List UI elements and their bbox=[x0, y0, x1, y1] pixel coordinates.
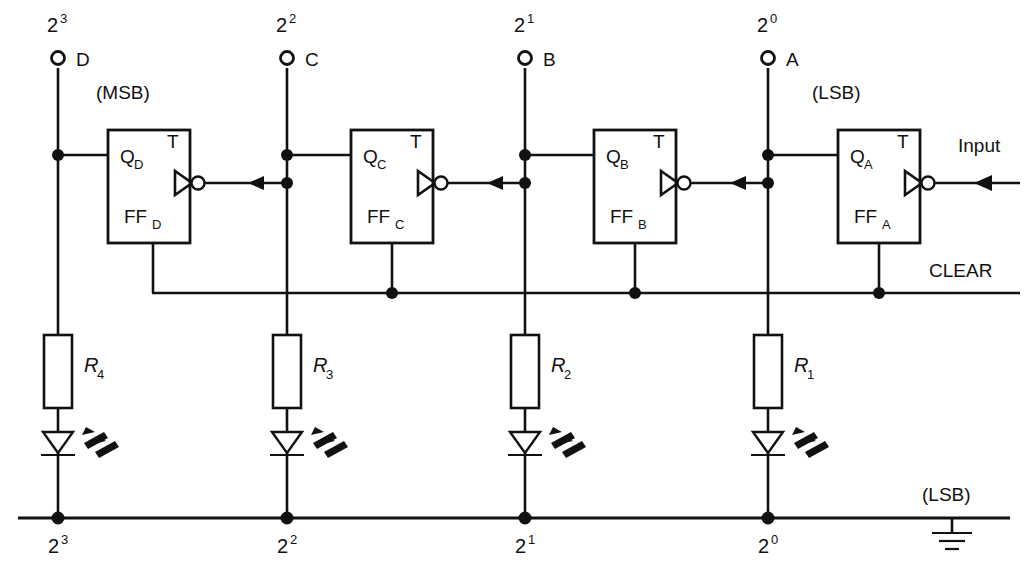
junction-dot-C-q bbox=[281, 149, 293, 161]
led-triangle-bit-3 bbox=[43, 432, 73, 453]
ff-label-A: FF bbox=[854, 206, 877, 227]
terminal-power-exp-B: 1 bbox=[527, 11, 534, 26]
junction-dot-A-q bbox=[762, 149, 774, 161]
resistor-sub-R1: 1 bbox=[807, 367, 814, 382]
q-sub-A: A bbox=[864, 157, 873, 172]
terminal-circle-A[interactable] bbox=[762, 52, 775, 65]
input-label: Input bbox=[958, 135, 1001, 156]
bus-label-bit-0: 2 0 bbox=[758, 532, 778, 557]
lsb-top-label: (LSB) bbox=[812, 82, 861, 103]
led-glow-arrows-bit-0 bbox=[792, 427, 829, 458]
clock-bubble-B bbox=[678, 177, 691, 190]
terminal-name-B: B bbox=[543, 49, 556, 70]
clear-junction-dot-C bbox=[386, 287, 398, 299]
terminal-power-base-D: 2 bbox=[47, 14, 58, 36]
q-sub-B: B bbox=[620, 157, 629, 172]
terminal-circle-B[interactable] bbox=[519, 52, 532, 65]
junction-dot-B-q bbox=[519, 149, 531, 161]
clock-chain-A-to-B bbox=[690, 176, 768, 190]
resistor-R1[interactable] bbox=[754, 335, 782, 408]
resistor-sub-R4: 4 bbox=[97, 367, 104, 382]
indicator-branch-bit-3: R 4 bbox=[41, 335, 119, 458]
q-label-A: Q bbox=[850, 146, 865, 167]
clock-bubble-C bbox=[435, 177, 448, 190]
bus-power-exp-bit-3: 3 bbox=[61, 532, 68, 547]
clock-bubble-D bbox=[192, 177, 205, 190]
input-arrow-icon bbox=[974, 175, 992, 191]
ff-sub-C: C bbox=[395, 217, 404, 232]
terminal-name-C: C bbox=[305, 49, 319, 70]
led-glow-arrows-bit-1 bbox=[549, 427, 586, 458]
bus-label-bit-3: 2 3 bbox=[48, 532, 68, 557]
ff-label-B: FF bbox=[610, 206, 633, 227]
clock-chain-B-to-C bbox=[447, 176, 525, 190]
ff-sub-D: D bbox=[152, 217, 161, 232]
q-sub-D: D bbox=[134, 157, 143, 172]
q-label-B: Q bbox=[606, 146, 621, 167]
clock-bubble-A bbox=[922, 177, 935, 190]
bus-power-base-bit-3: 2 bbox=[48, 535, 59, 557]
resistor-sub-R2: 2 bbox=[564, 367, 571, 382]
terminal-power-base-C: 2 bbox=[276, 14, 287, 36]
ff-sub-B: B bbox=[638, 217, 647, 232]
terminal-power-exp-A: 0 bbox=[770, 11, 777, 26]
junction-dot-A-clock bbox=[762, 177, 774, 189]
clock-arrow-A-to-B bbox=[730, 176, 746, 190]
flipflop-FF-C[interactable]: Q C T FF C bbox=[287, 130, 448, 293]
junction-dot-B-clock bbox=[519, 177, 531, 189]
indicator-branch-bit-1: R 2 bbox=[508, 335, 586, 458]
circuit-svg: 2 3 D 2 2 C 2 1 B 2 0 A (MSB) (LSB) Q D … bbox=[0, 0, 1028, 581]
resistor-sub-R3: 3 bbox=[326, 367, 333, 382]
clock-arrow-C-to-D bbox=[248, 176, 264, 190]
terminal-circle-D[interactable] bbox=[52, 52, 65, 65]
circuit-diagram: 2 3 D 2 2 C 2 1 B 2 0 A (MSB) (LSB) Q D … bbox=[0, 0, 1028, 581]
led-triangle-bit-1 bbox=[510, 432, 540, 453]
led-glow-arrows-bit-2 bbox=[311, 427, 348, 458]
resistor-R2[interactable] bbox=[511, 335, 539, 408]
bus-power-base-bit-2: 2 bbox=[277, 535, 288, 557]
t-label-D: T bbox=[167, 131, 179, 152]
terminal-name-A: A bbox=[786, 49, 799, 70]
terminal-power-exp-C: 2 bbox=[289, 11, 296, 26]
t-label-A: T bbox=[897, 131, 909, 152]
terminal-circle-C[interactable] bbox=[281, 52, 294, 65]
ground-junction-dot-bit-3 bbox=[52, 512, 65, 525]
flipflop-FF-D[interactable]: Q D T FF D bbox=[58, 130, 205, 293]
junction-dot-C-clock bbox=[281, 177, 293, 189]
clock-arrow-B-to-C bbox=[487, 176, 503, 190]
flipflop-FF-B[interactable]: Q B T FF B bbox=[525, 130, 691, 293]
indicator-branch-bit-0: R 1 bbox=[751, 335, 829, 458]
resistor-R3[interactable] bbox=[273, 335, 301, 408]
ff-label-D: FF bbox=[124, 206, 147, 227]
ff-label-C: FF bbox=[367, 206, 390, 227]
clear-bus[interactable]: CLEAR bbox=[152, 260, 1020, 293]
bus-power-exp-bit-2: 2 bbox=[290, 532, 297, 547]
clear-junction-dot-B bbox=[629, 287, 641, 299]
led-glow-arrows-bit-3 bbox=[82, 427, 119, 458]
clear-junction-dot-A bbox=[873, 287, 885, 299]
ground-junction-dot-bit-1 bbox=[519, 512, 532, 525]
resistor-R4[interactable] bbox=[44, 335, 72, 408]
flipflop-FF-A[interactable]: Q A T FF A bbox=[768, 130, 935, 293]
terminal-name-D: D bbox=[76, 49, 90, 70]
msb-label: (MSB) bbox=[96, 82, 150, 103]
clear-label: CLEAR bbox=[929, 260, 992, 281]
q-label-C: Q bbox=[363, 146, 378, 167]
bus-power-base-bit-0: 2 bbox=[758, 535, 769, 557]
ground-symbol bbox=[932, 518, 972, 549]
led-triangle-bit-0 bbox=[753, 432, 783, 453]
bus-label-bit-1: 2 1 bbox=[515, 532, 535, 557]
terminal-power-exp-D: 3 bbox=[60, 11, 67, 26]
terminal-power-base-A: 2 bbox=[757, 14, 768, 36]
lsb-ground-label: (LSB) bbox=[922, 484, 971, 505]
t-label-C: T bbox=[410, 131, 422, 152]
input-clock-wire[interactable]: Input bbox=[934, 135, 1020, 191]
q-sub-C: C bbox=[377, 157, 386, 172]
ground-junction-dot-bit-0 bbox=[762, 512, 775, 525]
indicator-branch-bit-2: R 3 bbox=[270, 335, 348, 458]
q-label-D: Q bbox=[120, 146, 135, 167]
bus-power-base-bit-1: 2 bbox=[515, 535, 526, 557]
ground-junction-dot-bit-2 bbox=[281, 512, 294, 525]
bus-power-exp-bit-0: 0 bbox=[771, 532, 778, 547]
bus-power-exp-bit-1: 1 bbox=[528, 532, 535, 547]
